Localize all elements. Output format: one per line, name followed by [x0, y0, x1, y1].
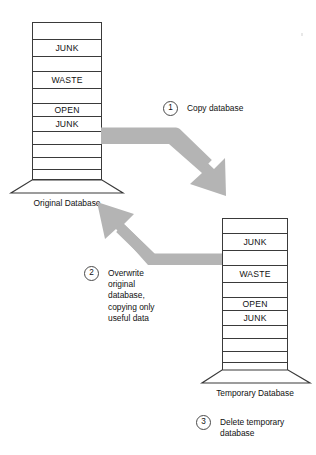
db-segment-label: OPEN [54, 106, 79, 115]
db-segment [223, 251, 287, 266]
db-segment-label: OPEN [242, 300, 267, 309]
db-segment-label: JUNK [243, 314, 266, 323]
db-segment [33, 145, 101, 158]
original-database-label: Original Database [2, 198, 132, 208]
db-segment [223, 283, 287, 298]
db-segment [33, 132, 101, 145]
db-segment-label: WASTE [239, 270, 270, 279]
db-segment-label: JUNK [243, 238, 266, 247]
temporary-database-base [201, 369, 311, 385]
db-segment [33, 158, 101, 170]
step-2: 2 Overwrite original database, copying o… [84, 266, 209, 324]
db-segment [223, 219, 287, 234]
db-segment: JUNK [33, 40, 101, 57]
db-segment: OPEN [33, 104, 101, 117]
db-segment [223, 326, 287, 339]
page-speck [301, 33, 303, 36]
original-database-segments: JUNK WASTE OPEN JUNK [32, 22, 102, 180]
diagram-canvas: JUNK WASTE OPEN JUNK Original Database J… [0, 0, 316, 455]
db-segment [33, 57, 101, 72]
temporary-database-segments: JUNK WASTE OPEN JUNK [222, 218, 288, 372]
db-segment: JUNK [223, 234, 287, 251]
db-segment: OPEN [223, 298, 287, 311]
step-1: 1 Copy database [163, 101, 308, 116]
original-database-base [10, 179, 124, 195]
step-1-text: Copy database [187, 101, 243, 114]
temporary-database-label: Temporary Database [192, 388, 316, 398]
db-segment [33, 23, 101, 40]
db-segment: JUNK [33, 117, 101, 132]
step-3-text: Delete temporary database [220, 415, 284, 439]
db-segment: WASTE [33, 72, 101, 89]
db-segment: WASTE [223, 266, 287, 283]
db-segment-label: WASTE [51, 76, 82, 85]
db-segment [223, 352, 287, 363]
step-2-text: Overwrite original database, copying onl… [108, 266, 155, 324]
db-segment-label: JUNK [55, 44, 78, 53]
step-2-number: 2 [84, 266, 99, 281]
step-3: 3 Delete temporary database [196, 415, 316, 439]
step-3-number: 3 [196, 415, 211, 430]
db-segment [223, 339, 287, 352]
step-1-number: 1 [163, 101, 178, 116]
db-segment: JUNK [223, 311, 287, 326]
db-segment-label: JUNK [55, 120, 78, 129]
db-segment [33, 170, 101, 179]
db-segment [33, 89, 101, 104]
